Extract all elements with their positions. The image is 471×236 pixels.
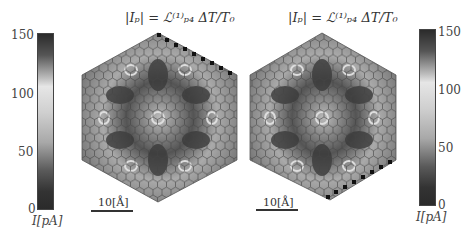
- hexagon-map-left: [0, 0, 471, 236]
- scale-label-left: 10[Å]: [98, 196, 129, 209]
- scale-bar-left: [91, 210, 133, 212]
- scale-label-right: 10[Å]: [263, 196, 294, 209]
- scale-bar-right: [256, 209, 298, 211]
